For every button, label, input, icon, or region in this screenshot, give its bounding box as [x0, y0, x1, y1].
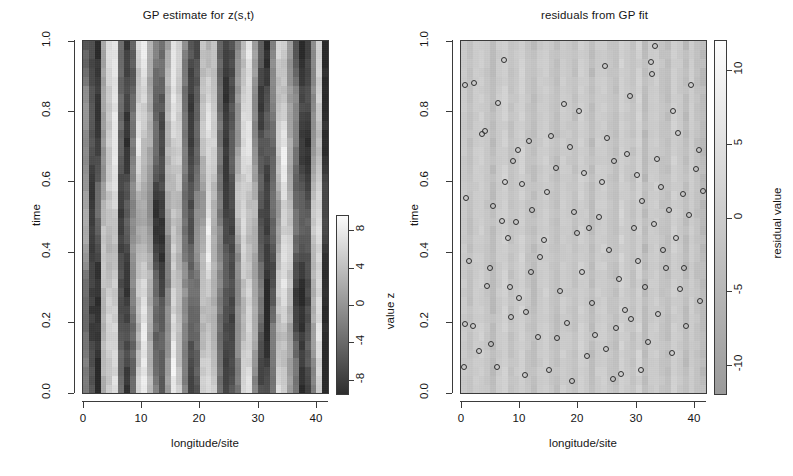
residual-point [548, 133, 554, 139]
residual-point [631, 225, 637, 231]
x-tick-label: 20 [179, 412, 219, 424]
residual-point [599, 179, 605, 185]
colorbar-tick-label: -4 [354, 323, 366, 357]
residual-point [648, 59, 654, 65]
colorbar-tick-label: 10 [732, 51, 744, 85]
residual-point [529, 207, 535, 213]
residual-point [624, 151, 630, 157]
residual-point [571, 209, 577, 215]
residual-point [501, 57, 507, 63]
residual-point [510, 158, 516, 164]
residual-point [463, 195, 469, 201]
heatmap-cell [322, 217, 328, 226]
heatmap-cell [322, 235, 328, 244]
heatmap-cell [322, 287, 328, 296]
heatmap-cell [322, 314, 328, 323]
residual-point [622, 307, 628, 313]
colorbar-tick-label: 0 [354, 286, 366, 320]
residual-point [581, 170, 587, 176]
x-tick-mark [83, 402, 84, 408]
residual-point [604, 135, 610, 141]
y-tick-mark [68, 252, 74, 253]
x-tick-mark [694, 402, 695, 408]
residual-point [651, 221, 657, 227]
heatmap-cell [322, 182, 328, 191]
heatmap-cell [322, 367, 328, 376]
residual-point [610, 376, 616, 382]
residual-point [675, 130, 681, 136]
x-tick-label: 40 [296, 412, 336, 424]
heatmap-cell [322, 41, 328, 50]
x-tick-label: 0 [63, 412, 103, 424]
heatmap-cells [83, 41, 328, 393]
heatmap-cell [322, 164, 328, 173]
colorbar-title-right: residual value [771, 158, 783, 288]
heatmap-cell [322, 270, 328, 279]
y-tick-mark [68, 181, 74, 182]
colorbar-gradient-right [715, 41, 726, 394]
residual-point [567, 144, 573, 150]
residual-point [462, 321, 468, 327]
residual-point [670, 108, 676, 114]
residual-point [592, 332, 598, 338]
colorbar-tick-label: -5 [732, 272, 744, 306]
residual-point [658, 184, 664, 190]
x-axis-line-left [82, 401, 328, 402]
residual-point [606, 247, 612, 253]
residual-point [645, 339, 651, 345]
colorbar-tick-label: 5 [732, 125, 744, 159]
heatmap-cell [322, 199, 328, 208]
heatmap-cell [322, 296, 328, 305]
residual-point [569, 378, 575, 384]
residual-point [652, 43, 658, 49]
heatmap-cell [322, 331, 328, 340]
residual-point [476, 348, 482, 354]
y-tick-label: 0.8 [418, 93, 430, 125]
residual-point [484, 283, 490, 289]
residual-point [677, 286, 683, 292]
x-tick-label: 10 [499, 412, 539, 424]
y-tick-label: 0.8 [40, 93, 52, 125]
x-tick-mark [636, 402, 637, 408]
residual-point [628, 316, 634, 322]
residual-point [634, 172, 640, 178]
colorbar-title-left: value z [384, 261, 396, 361]
colorbar-tick-label: -8 [354, 361, 366, 395]
residual-point [461, 364, 467, 370]
residual-point [526, 138, 532, 144]
residual-point [696, 147, 702, 153]
residual-plot-area [460, 40, 707, 394]
residual-point [544, 189, 550, 195]
y-axis-line-right [452, 40, 453, 393]
residual-point [499, 218, 505, 224]
y-tick-mark [446, 322, 452, 323]
y-tick-label: 0.2 [40, 304, 52, 336]
heatmap-cell [322, 59, 328, 68]
residual-point [693, 166, 699, 172]
residual-point [546, 367, 552, 373]
heatmap-cell [322, 147, 328, 156]
residual-point [642, 284, 648, 290]
heatmap-cell [322, 173, 328, 182]
panel-title-gp-estimate: GP estimate for z(s,t) [0, 9, 397, 21]
x-tick-label: 30 [238, 412, 278, 424]
heatmap-cell [322, 375, 328, 384]
residual-point [528, 269, 534, 275]
residual-point [487, 265, 493, 271]
colorbar-tick-label: 0 [732, 199, 744, 233]
x-tick-label: 10 [121, 412, 161, 424]
residual-point [686, 212, 692, 218]
residual-point [627, 93, 633, 99]
residual-point [576, 108, 582, 114]
heatmap-column [322, 41, 328, 393]
heatmap-cell [322, 279, 328, 288]
heatmap-cell [322, 76, 328, 85]
residual-point [479, 131, 485, 137]
residual-point [683, 323, 689, 329]
residual-point [535, 334, 541, 340]
heatmap-cell [322, 226, 328, 235]
residual-point [586, 225, 592, 231]
residual-point [508, 314, 514, 320]
residual-point [613, 325, 619, 331]
heatmap-cell [322, 252, 328, 261]
